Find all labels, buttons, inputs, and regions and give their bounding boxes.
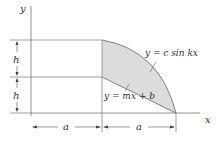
sine-curve-label: y = c sin kx bbox=[144, 48, 198, 58]
arrow-icon bbox=[16, 78, 19, 82]
arrow-icon bbox=[103, 126, 108, 129]
h-upper-label: h bbox=[13, 54, 19, 65]
arrow-icon bbox=[16, 108, 19, 112]
linear-curve-label: y = mx + b bbox=[103, 91, 155, 101]
a-right-label: a bbox=[136, 121, 142, 132]
y-axis-label: y bbox=[19, 3, 26, 14]
h-lower-label: h bbox=[13, 90, 19, 101]
arrow-icon bbox=[96, 126, 101, 129]
arrow-icon bbox=[16, 72, 19, 76]
diagram-canvas: y x h h a a y = c sin kx y = mx + b bbox=[0, 0, 216, 141]
arrow-icon bbox=[16, 41, 19, 45]
x-axis-label: x bbox=[205, 114, 211, 125]
a-left-label: a bbox=[63, 121, 69, 132]
arrow-icon bbox=[32, 126, 37, 129]
arrow-icon bbox=[170, 126, 175, 129]
